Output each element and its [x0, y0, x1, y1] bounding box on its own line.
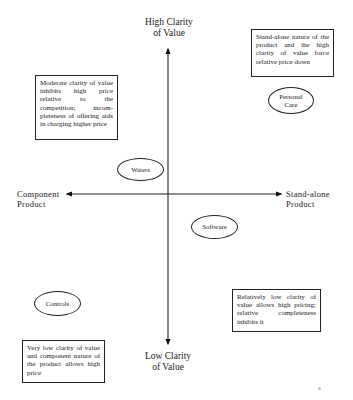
low-clarity-line-2: of Value	[140, 362, 196, 373]
component-line-1: Component	[17, 189, 59, 199]
stand-alone-product-label: Stand-alone Product	[286, 189, 330, 209]
category-personal-care: Personal Care	[268, 87, 314, 114]
stand-alone-line-2: Product	[286, 199, 330, 209]
category-controls: Controls	[34, 291, 81, 316]
note-top-right: Stand-alone nature of the product and th…	[251, 29, 334, 77]
low-clarity-line-1: Low Clarity	[140, 351, 196, 362]
personal-care-line-1: Personal	[279, 93, 302, 101]
high-clarity-line-2: of Value	[138, 28, 200, 39]
category-waters: Waters	[117, 158, 164, 181]
stand-alone-line-1: Stand-alone	[286, 189, 330, 199]
component-product-label: Component Product	[17, 189, 59, 209]
high-clarity-label: High Clarity of Value	[138, 17, 200, 39]
note-bottom-right: Relatively low clarity of value allows h…	[232, 289, 321, 332]
high-clarity-line-1: High Clarity	[138, 17, 200, 28]
category-software: Software	[191, 215, 238, 239]
personal-care-line-2: Care	[279, 101, 302, 109]
component-line-2: Product	[17, 199, 59, 209]
note-bottom-left: Very low clarity of value and component …	[22, 340, 105, 383]
scan-speck	[318, 387, 321, 390]
note-top-left: Moderate clarity of value inhibits high …	[35, 75, 118, 140]
low-clarity-label: Low Clarity of Value	[140, 351, 196, 373]
